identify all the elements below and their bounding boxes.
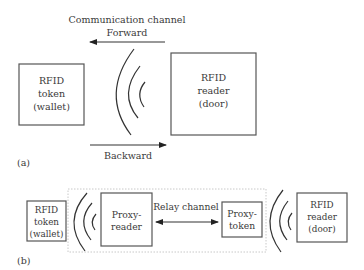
part-a: Communication channel Forward RFID token…: [17, 14, 256, 168]
reader-b-line3: (door): [308, 224, 335, 234]
part-b-label: (b): [17, 255, 31, 266]
token-b-line1: RFID: [35, 205, 58, 215]
channel-title: Communication channel: [69, 14, 186, 25]
proxy-reader-line1: Proxy-: [112, 209, 142, 220]
radio-waves-icon-b-right: [270, 190, 292, 252]
proxy-token-line1: Proxy-: [227, 208, 257, 219]
token-line3: (wallet): [33, 101, 70, 112]
proxy-reader-box: Proxy- reader: [101, 193, 152, 246]
radio-waves-icon-a: [116, 49, 145, 135]
reader-line2: reader: [197, 85, 230, 96]
proxy-token-box: Proxy- token: [222, 202, 262, 237]
token-line2: token: [38, 88, 65, 99]
token-box-a: RFID token (wallet): [19, 64, 84, 125]
reader-line1: RFID: [201, 72, 226, 83]
reader-line3: (door): [199, 98, 228, 109]
part-b: RFID token (wallet) Proxy- reader Relay …: [17, 189, 347, 266]
reader-box-b: RFID reader (door): [297, 193, 347, 242]
token-line1: RFID: [39, 75, 64, 86]
proxy-reader-line2: reader: [111, 221, 143, 232]
relay-channel-label: Relay channel: [153, 201, 219, 212]
reader-b-line2: reader: [307, 212, 337, 222]
token-box-b: RFID token (wallet): [27, 201, 66, 241]
backward-label: Backward: [104, 150, 152, 161]
proxy-token-line2: token: [229, 220, 255, 231]
part-a-label: (a): [17, 157, 30, 168]
token-b-line2: token: [34, 217, 59, 227]
reader-box-a: RFID reader (door): [171, 53, 256, 135]
token-b-line3: (wallet): [29, 229, 63, 239]
forward-label: Forward: [107, 27, 148, 38]
relay-attack-diagram: Communication channel Forward RFID token…: [0, 0, 364, 270]
radio-waves-icon-b-left: [74, 193, 96, 251]
reader-b-line1: RFID: [310, 200, 333, 210]
